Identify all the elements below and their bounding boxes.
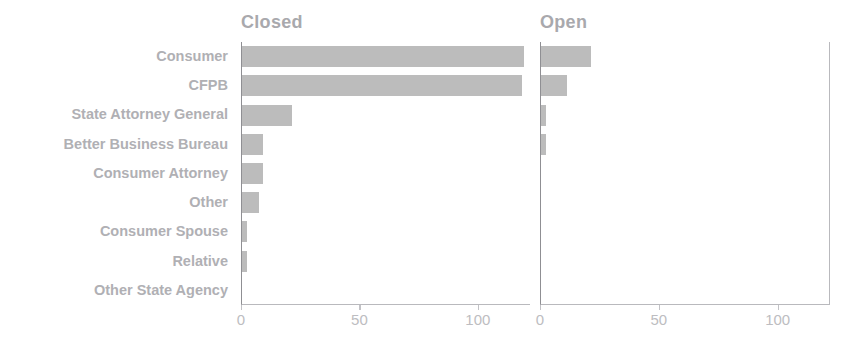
bar (242, 163, 263, 184)
facet-title-closed: Closed (241, 13, 303, 31)
x-tick-mark (241, 305, 242, 310)
grouped-bar-chart: Closed Open ConsumerCFPBState Attorney G… (0, 0, 848, 359)
bar (541, 75, 567, 96)
x-tick-label: 0 (237, 312, 245, 327)
bar (541, 46, 591, 67)
x-axis-open: 050100 (540, 305, 830, 345)
category-label: State Attorney General (71, 100, 228, 129)
x-tick-mark (478, 305, 479, 310)
bar (242, 46, 524, 67)
category-label: Consumer Spouse (100, 217, 228, 246)
bar (541, 134, 546, 155)
x-tick-mark (659, 305, 660, 310)
x-tick-label: 50 (651, 312, 668, 327)
category-label: Other (189, 188, 228, 217)
bar (242, 221, 247, 242)
category-axis: ConsumerCFPBState Attorney GeneralBetter… (0, 42, 234, 305)
bar (242, 134, 263, 155)
x-tick-label: 50 (351, 312, 368, 327)
x-tick-mark (359, 305, 360, 310)
bar (242, 105, 292, 126)
panel-open (540, 42, 830, 305)
x-axis-closed: 050100 (241, 305, 530, 345)
x-tick-label: 100 (765, 312, 790, 327)
x-tick-label: 100 (465, 312, 490, 327)
bar (541, 105, 546, 126)
bar (242, 192, 259, 213)
x-tick-mark (778, 305, 779, 310)
x-tick-mark (540, 305, 541, 310)
category-label: CFPB (189, 71, 228, 100)
category-label: Better Business Bureau (64, 130, 228, 159)
category-label: Consumer (156, 42, 228, 71)
category-label: Consumer Attorney (93, 159, 228, 188)
bar (242, 75, 522, 96)
bars-closed (242, 42, 530, 304)
category-label: Other State Agency (94, 276, 228, 305)
category-label: Relative (172, 247, 228, 276)
bar (242, 251, 247, 272)
facet-title-open: Open (540, 13, 587, 31)
panel-closed (241, 42, 530, 305)
bars-open (541, 42, 829, 304)
x-tick-label: 0 (536, 312, 544, 327)
